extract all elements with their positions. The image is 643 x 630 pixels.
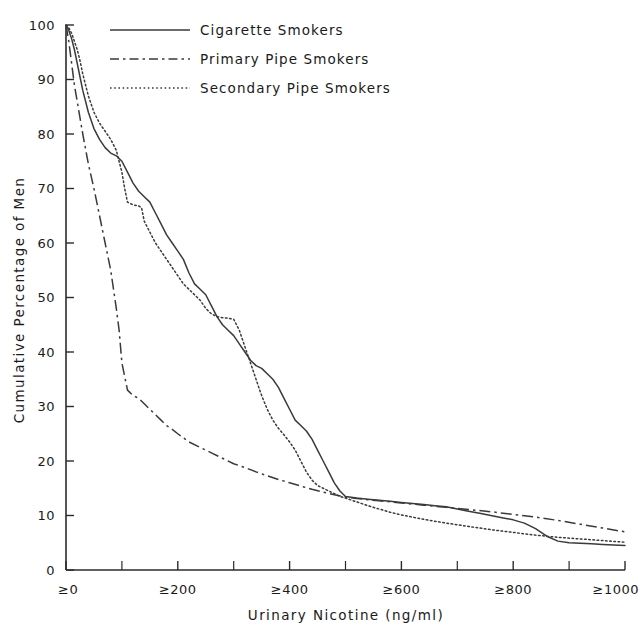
x-axis-ticks [66, 561, 625, 570]
y-tick-label: 50 [37, 290, 55, 305]
series-layer [66, 25, 625, 545]
y-axis-ticks [66, 25, 74, 570]
y-tick-label: 70 [37, 181, 55, 196]
y-axis-tick-labels: 0102030405060708090100 [29, 18, 55, 578]
y-tick-label: 10 [37, 508, 55, 523]
y-axis-title: Cumulative Percentage of Men [11, 177, 27, 424]
y-tick-label: 20 [37, 454, 55, 469]
x-tick-label: ≥400 [271, 582, 309, 597]
y-tick-label: 30 [37, 399, 55, 414]
line-chart: 0102030405060708090100 ≥0≥200≥400≥600≥80… [0, 0, 643, 630]
x-tick-label: ≥800 [494, 582, 532, 597]
y-tick-label: 100 [29, 18, 55, 33]
legend-label: Primary Pipe Smokers [200, 51, 369, 67]
y-tick-label: 0 [46, 563, 55, 578]
chart-legend: Cigarette SmokersPrimary Pipe SmokersSec… [110, 22, 391, 96]
y-tick-label: 60 [37, 236, 55, 251]
figure-container: 0102030405060708090100 ≥0≥200≥400≥600≥80… [0, 0, 643, 630]
x-axis-title: Urinary Nicotine (ng/ml) [248, 607, 444, 623]
x-tick-label: ≥1000 [593, 582, 639, 597]
series-cigarette-smokers [66, 25, 625, 545]
series-primary-pipe-smokers [66, 25, 625, 532]
y-tick-label: 40 [37, 345, 55, 360]
x-tick-label: ≥200 [159, 582, 197, 597]
y-tick-label: 80 [37, 127, 55, 142]
x-tick-label: ≥0 [58, 582, 78, 597]
x-axis-tick-labels: ≥0≥200≥400≥600≥800≥1000 [58, 582, 639, 597]
y-tick-label: 90 [37, 72, 55, 87]
legend-label: Cigarette Smokers [200, 22, 344, 38]
series-secondary-pipe-smokers [66, 25, 625, 542]
legend-label: Secondary Pipe Smokers [200, 80, 391, 96]
x-tick-label: ≥600 [383, 582, 421, 597]
